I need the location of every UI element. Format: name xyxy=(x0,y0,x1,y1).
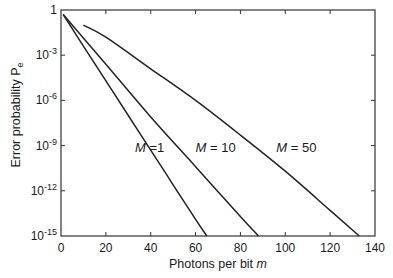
x-tick-label: 100 xyxy=(275,241,295,255)
x-axis-ticks: 020406080100120140 xyxy=(58,10,386,255)
x-tick-label: 80 xyxy=(234,241,248,255)
y-axis-title: Error probability Pe xyxy=(9,62,25,167)
y-axis-ticks: 110-310-610-910-1210-15 xyxy=(31,3,375,243)
y-tick-label: 10-3 xyxy=(36,46,57,62)
x-axis-label: Photons per bit m xyxy=(169,257,267,271)
y-tick-label: 10-9 xyxy=(36,137,57,153)
series-line-1 xyxy=(63,15,207,237)
series-line-3 xyxy=(83,25,359,236)
y-tick-label: 10-15 xyxy=(31,227,57,243)
y-tick-label: 10-12 xyxy=(31,182,57,198)
x-tick-label: 40 xyxy=(144,241,158,255)
x-axis-title: Photons per bit m xyxy=(169,257,267,271)
series-labels: M =1M = 10M = 50 xyxy=(135,140,316,155)
series-lines xyxy=(63,15,359,237)
error-probability-chart: Error probability Pe Photons per bit m 0… xyxy=(0,0,393,278)
x-tick-label: 60 xyxy=(189,241,203,255)
y-tick-label: 1 xyxy=(50,3,57,17)
y-tick-label: 10-6 xyxy=(36,91,57,107)
series-label: M =1 xyxy=(135,140,164,155)
x-tick-label: 140 xyxy=(365,241,385,255)
series-label: M = 50 xyxy=(276,140,316,155)
x-tick-label: 120 xyxy=(320,241,340,255)
y-axis-label: Error probability Pe xyxy=(9,62,25,167)
x-tick-label: 0 xyxy=(58,241,65,255)
plot-frame xyxy=(61,10,375,236)
x-tick-label: 20 xyxy=(99,241,113,255)
series-label: M = 10 xyxy=(196,140,236,155)
